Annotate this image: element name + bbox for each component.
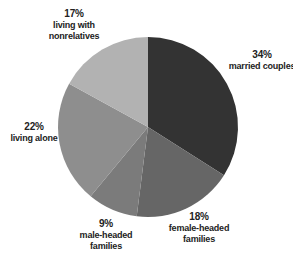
label-nonrel-text2: nonrelatives	[49, 31, 100, 42]
label-male-headed: 9% male-headed families	[80, 218, 133, 252]
label-female-text1: female-headed	[169, 223, 229, 234]
label-male-pct: 9%	[80, 218, 133, 230]
label-female-headed: 18% female-headed families	[169, 211, 229, 245]
label-female-pct: 18%	[169, 211, 229, 223]
label-nonrel-text1: living with	[49, 20, 100, 31]
label-female-text2: families	[169, 234, 229, 245]
label-male-text2: families	[80, 241, 133, 252]
label-married-couples: 34% married couples	[229, 49, 293, 72]
label-married-pct: 34%	[229, 49, 293, 61]
label-nonrelatives: 17% living with nonrelatives	[49, 8, 100, 42]
label-alone-text: living alone	[10, 133, 57, 144]
label-male-text1: male-headed	[80, 230, 133, 241]
label-nonrel-pct: 17%	[49, 8, 100, 20]
label-alone-pct: 22%	[10, 121, 57, 133]
pie-slices	[58, 37, 238, 217]
label-living-alone: 22% living alone	[10, 121, 57, 144]
label-married-text: married couples	[229, 61, 293, 72]
